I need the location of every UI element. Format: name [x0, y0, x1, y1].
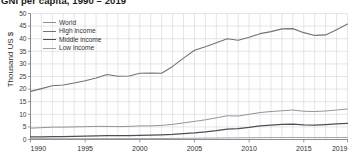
x-tick-label: 2005	[187, 145, 203, 152]
x-tick-label: 2010	[241, 145, 257, 152]
legend-line-swatch-icon	[43, 31, 56, 32]
legend-item-label: High income	[59, 27, 96, 34]
y-axis-ticks: 05101520253035404550	[19, 10, 30, 143]
legend-item-label: Middle income	[59, 36, 102, 43]
series-line-middle-income	[31, 123, 348, 137]
y-tick-label: 50	[19, 10, 27, 17]
x-axis-ticks: 1990199520002005201020152019	[31, 140, 348, 152]
legend-item-low-income[interactable]: Low income	[43, 44, 102, 51]
y-tick-label: 10	[19, 111, 27, 118]
x-tick-label: 2015	[296, 145, 312, 152]
y-tick-label: 35	[19, 48, 27, 55]
y-tick-label: 5	[23, 123, 27, 130]
x-tick-label: 1990	[31, 145, 47, 152]
chart-container: GNI per capita, 1990 – 2019 Thousand US …	[0, 0, 351, 159]
y-tick-label: 45	[19, 22, 27, 29]
legend-item-middle-income[interactable]: Middle income	[43, 36, 102, 43]
legend-item-label: World	[59, 19, 76, 26]
y-tick-label: 15	[19, 98, 27, 105]
y-tick-label: 30	[19, 60, 27, 67]
x-tick-label: 2000	[132, 145, 148, 152]
y-tick-label: 25	[19, 73, 27, 80]
y-tick-label: 20	[19, 85, 27, 92]
series-line-low-income	[31, 137, 348, 138]
y-tick-label: 0	[23, 136, 27, 143]
legend-item-high-income[interactable]: High income	[43, 27, 102, 34]
legend-line-swatch-icon	[43, 39, 56, 40]
legend-item-world[interactable]: World	[43, 19, 102, 26]
y-tick-label: 40	[19, 35, 27, 42]
x-tick-label: 1995	[77, 145, 93, 152]
legend-item-label: Low income	[59, 44, 94, 51]
legend-line-swatch-icon	[43, 48, 56, 49]
legend-line-swatch-icon	[43, 22, 56, 23]
x-tick-label: 2019	[332, 145, 348, 152]
chart-legend: WorldHigh incomeMiddle incomeLow income	[43, 19, 102, 53]
series-line-world	[31, 109, 348, 128]
